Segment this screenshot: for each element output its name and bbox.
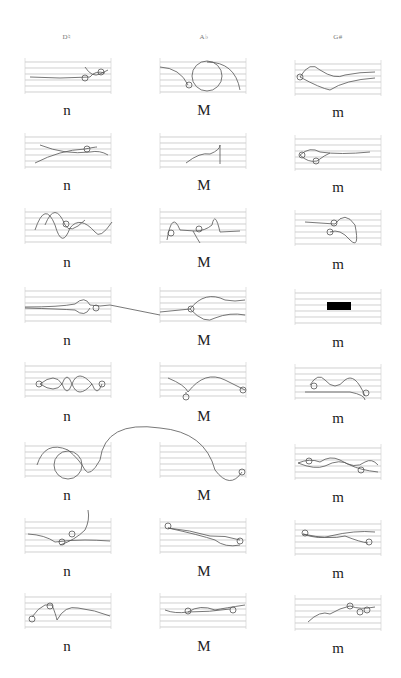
label-M: M [197, 638, 210, 655]
label-m: m [332, 334, 344, 351]
label-M: M [197, 408, 210, 425]
label-n: n [63, 408, 71, 425]
label-m: m [332, 256, 344, 273]
filled-block [327, 302, 351, 310]
label-M: M [197, 487, 210, 504]
label-n: n [63, 332, 71, 349]
label-n: n [63, 563, 71, 580]
label-m: m [332, 179, 344, 196]
label-M: M [197, 102, 210, 119]
label-m: m [332, 410, 344, 427]
label-n: n [63, 487, 71, 504]
label-m: m [332, 640, 344, 657]
label-n: n [63, 254, 71, 271]
label-m: m [332, 104, 344, 121]
label-M: M [197, 332, 210, 349]
label-m: m [332, 565, 344, 582]
label-M: M [197, 563, 210, 580]
label-M: M [197, 177, 210, 194]
label-m: m [332, 489, 344, 506]
label-n: n [63, 177, 71, 194]
label-n: n [63, 102, 71, 119]
label-M: M [197, 254, 210, 271]
label-n: n [63, 638, 71, 655]
